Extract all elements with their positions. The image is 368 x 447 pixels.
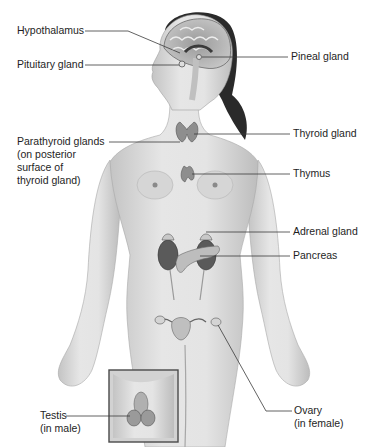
testis-line-1: Testis <box>40 409 81 422</box>
parathyroid-line-4: thyroid gland) <box>17 174 117 187</box>
parathyroid-line-1: Parathyroid glands <box>17 135 117 148</box>
parathyroid-line-3: surface of <box>17 161 117 174</box>
label-pituitary-gland: Pituitary gland <box>17 58 84 71</box>
label-adrenal-gland: Adrenal gland <box>293 225 358 238</box>
pituitary-gland-shape <box>179 61 185 67</box>
label-hypothalamus: Hypothalamus <box>17 24 84 37</box>
left-kidney-shape <box>158 240 178 270</box>
male-inset <box>109 370 178 442</box>
label-thyroid-gland: Thyroid gland <box>293 127 357 140</box>
ovary-shape <box>211 318 221 326</box>
label-pancreas: Pancreas <box>293 249 337 262</box>
endocrine-diagram: Hypothalamus Pituitary gland Pineal glan… <box>0 0 368 447</box>
testis-line-2: (in male) <box>40 422 81 435</box>
ovary-line-1: Ovary <box>294 404 344 417</box>
testis-shape <box>127 410 141 426</box>
label-pineal-gland: Pineal gland <box>291 50 349 63</box>
ovary-line-2: (in female) <box>294 417 344 430</box>
label-parathyroid-glands: Parathyroid glands (on posterior surface… <box>17 135 117 187</box>
label-ovary: Ovary (in female) <box>294 404 344 430</box>
label-thymus: Thymus <box>293 167 330 180</box>
parathyroid-line-2: (on posterior <box>17 148 117 161</box>
pineal-gland-shape <box>197 55 202 60</box>
label-testis: Testis (in male) <box>40 409 81 435</box>
